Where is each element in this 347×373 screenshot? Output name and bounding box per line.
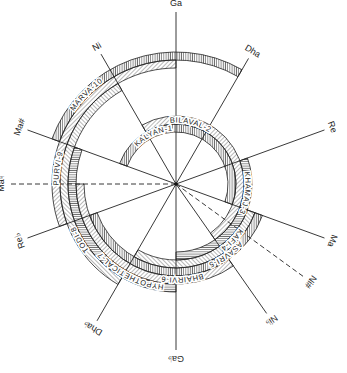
note-label-ma: Ma <box>326 233 340 248</box>
note-label-ga: Ga <box>170 0 182 8</box>
note-label-ga-flat: Ga♭ <box>168 354 184 364</box>
note-label-ma-sharp: Ma# <box>12 117 27 137</box>
note-label-re: Re <box>326 120 339 134</box>
note-label-ni-sharp: Ni# <box>303 274 319 291</box>
note-label-ni-flat: Ni♭ <box>264 313 280 328</box>
spoke-ni-flat <box>176 184 267 313</box>
spoke-ma-sharp <box>28 130 176 184</box>
note-label-ma-natural-dashed: Ma♮ <box>0 176 6 192</box>
thaat-circle-diagram: KALYAN-1KALYAN-1BILAVAL-2BILAVAL-2KHAMAJ… <box>0 0 347 373</box>
note-label-dha-flat: Dha♭ <box>81 319 104 338</box>
note-label-ni: Ni <box>91 40 103 53</box>
note-label-dha: Dha <box>243 42 262 59</box>
center-point <box>174 182 178 186</box>
note-label-re-flat: Re♭ <box>12 232 27 250</box>
